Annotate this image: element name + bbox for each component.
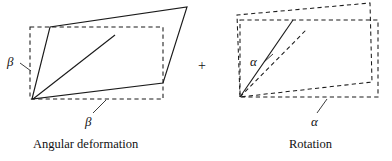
leader-line-beta-lower bbox=[93, 100, 106, 113]
figure-canvas: β β Angular deformation + α α bbox=[0, 0, 392, 161]
angle-label-alpha-lower: α bbox=[311, 114, 319, 129]
plus-operator: + bbox=[198, 58, 206, 73]
right-panel-group: α α Rotation bbox=[237, 3, 378, 151]
caption-angular-deformation: Angular deformation bbox=[33, 137, 139, 151]
reference-rectangle-dashed-left bbox=[30, 27, 163, 99]
deformation-decomposition-figure: β β Angular deformation + α α bbox=[0, 0, 392, 161]
leader-line-alpha-lower bbox=[317, 99, 327, 113]
caption-rotation: Rotation bbox=[289, 137, 333, 151]
angle-label-beta-lower: β bbox=[84, 114, 92, 129]
interior-diagonal-solid-right bbox=[240, 20, 293, 97]
left-panel-group: β β Angular deformation bbox=[6, 7, 187, 151]
leader-line-beta-upper bbox=[20, 63, 31, 71]
rotated-rectangle-dashed bbox=[237, 3, 372, 97]
reference-rectangle-dashed-right bbox=[240, 20, 378, 97]
deformed-parallelogram-solid bbox=[32, 7, 187, 99]
angle-label-alpha-upper: α bbox=[250, 54, 258, 69]
angle-label-beta-upper: β bbox=[6, 54, 14, 69]
